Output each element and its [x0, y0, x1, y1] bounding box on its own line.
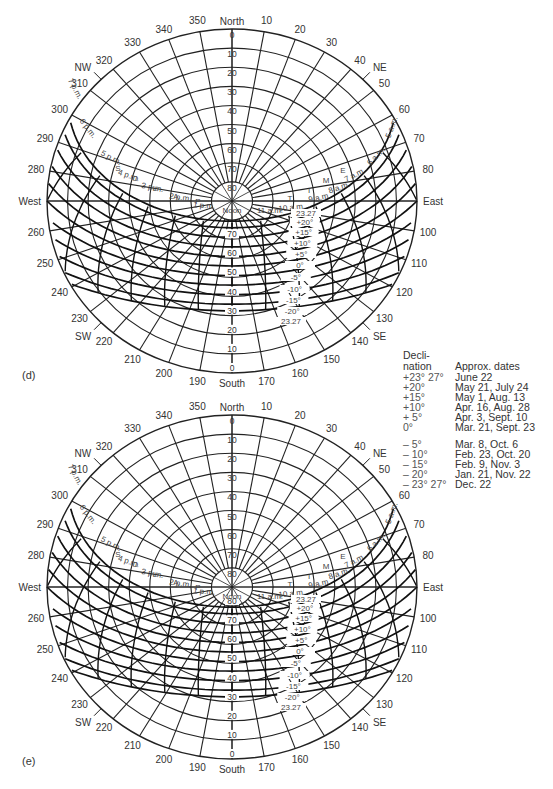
azimuth-label: 320	[96, 55, 113, 66]
azimuth-label: 200	[156, 368, 173, 379]
azimuth-label: 240	[51, 673, 68, 684]
azimuth-label: 210	[124, 354, 141, 365]
legend-row: – 23° 27°Dec. 22	[395, 479, 553, 489]
azimuth-label: 40	[354, 441, 366, 452]
altitude-label: 40	[227, 106, 237, 116]
altitude-label-south: 0	[230, 363, 235, 373]
azimuth-label: 280	[28, 164, 45, 175]
azimuth-label: 130	[376, 699, 393, 710]
declination-label: 23.27	[281, 317, 302, 326]
azimuth-label: 150	[323, 354, 340, 365]
altitude-label: 70	[227, 550, 237, 560]
azimuth-label: 100	[420, 227, 437, 238]
azimuth-label: 260	[28, 613, 45, 624]
hour-label-am: 6 a.m.	[365, 145, 387, 167]
azimuth-label: 330	[124, 423, 141, 434]
altitude-label-south: 20	[227, 325, 237, 335]
azimuth-label: 10	[261, 401, 273, 412]
declination-label: -10°	[287, 285, 302, 294]
azimuth-label: 60	[399, 104, 411, 115]
compass-east: East	[423, 196, 443, 207]
azimuth-line	[140, 52, 222, 184]
altitude-label-south: 40	[227, 287, 237, 297]
altitude-label: 40	[227, 492, 237, 502]
altitude-label: 20	[227, 68, 237, 78]
altitude-label-south: 50	[227, 267, 237, 277]
month-letter: E	[340, 552, 345, 561]
month-letter: S	[115, 164, 120, 173]
month-letter: T	[288, 194, 293, 203]
azimuth-label: 260	[28, 227, 45, 238]
declination-label: +20°	[296, 604, 313, 613]
month-letter: L	[153, 184, 158, 193]
azimuth-label: 40	[354, 55, 366, 66]
azimuth-label: 240	[51, 287, 68, 298]
azimuth-label: 150	[323, 740, 340, 751]
azimuth-label: 100	[420, 613, 437, 624]
altitude-label: 20	[227, 454, 237, 464]
hour-label-am: 6 a.m.	[365, 531, 387, 553]
declination-label: +15°	[295, 614, 312, 623]
compass-sw: SW	[75, 717, 92, 728]
altitude-label: 80	[227, 569, 237, 579]
compass-tick-ne	[363, 72, 370, 79]
declination-label: 23.27	[281, 703, 302, 712]
compass-se: SE	[373, 717, 387, 728]
azimuth-label: 250	[37, 258, 54, 269]
azimuth-label: 70	[413, 133, 425, 144]
azimuth-line	[250, 501, 392, 577]
declination-label: -10°	[287, 671, 302, 680]
hour-label-pm: Noon	[222, 206, 241, 215]
month-letter: I	[308, 572, 310, 581]
compass-east: East	[423, 582, 443, 593]
altitude-label-south: 60	[227, 634, 237, 644]
compass-west: West	[18, 582, 41, 593]
azimuth-label: 20	[295, 24, 307, 35]
azimuth-label: 210	[124, 740, 141, 751]
declination-label: +5°	[295, 636, 307, 645]
legend-rows-lower: – 5°Mar. 8, Oct. 6– 10°Feb. 23, Oct. 20–…	[395, 439, 553, 489]
azimuth-line	[242, 438, 324, 570]
azimuth-label: 200	[156, 754, 173, 765]
legend-col2-header: Approx. dates	[453, 350, 553, 372]
altitude-label: 60	[227, 145, 237, 155]
month-letter: A	[173, 192, 179, 201]
month-letter: M	[323, 562, 330, 571]
azimuth-label: 190	[189, 762, 206, 773]
azimuth-label: 340	[156, 24, 173, 35]
altitude-label: 80	[227, 183, 237, 193]
month-letter: P	[195, 197, 200, 206]
altitude-label-south: 0	[230, 749, 235, 759]
declination-legend: Decli- nation Approx. dates +23° 27°June…	[395, 350, 553, 489]
altitude-label-south: 30	[227, 692, 237, 702]
hour-label-pm: 6 p.m.	[78, 503, 99, 526]
azimuth-label: 140	[352, 336, 369, 347]
sun-path-chart-e: 3503403303203103002902802602502402302202…	[18, 401, 443, 775]
declination-label: 0°	[296, 647, 304, 656]
altitude-label-south: 20	[227, 711, 237, 721]
declination-label: -20°	[285, 693, 300, 702]
declination-label: 23.27	[296, 595, 317, 604]
panel-label: (d)	[22, 369, 35, 381]
legend-dates: Dec. 22	[453, 479, 553, 489]
azimuth-label: 80	[422, 164, 434, 175]
compass-west: West	[18, 196, 41, 207]
azimuth-label: 170	[258, 376, 275, 387]
compass-sw: SW	[75, 331, 92, 342]
azimuth-label: 300	[51, 490, 68, 501]
azimuth-label: 350	[189, 15, 206, 26]
hour-label-pm: Noon	[222, 592, 241, 601]
altitude-label-south: 10	[227, 730, 237, 740]
azimuth-line	[236, 32, 265, 183]
azimuth-label: 60	[399, 490, 411, 501]
altitude-label-south: 50	[227, 653, 237, 663]
compass-south: South	[219, 378, 245, 389]
compass-se: SE	[373, 331, 387, 342]
azimuth-label: 250	[37, 644, 54, 655]
azimuth-label: 70	[413, 519, 425, 530]
compass-ne: NE	[373, 62, 387, 73]
panel-label: (e)	[22, 755, 35, 767]
month-letter: T	[288, 580, 293, 589]
altitude-label-south: 70	[227, 615, 237, 625]
declination-label: +5°	[295, 250, 307, 259]
